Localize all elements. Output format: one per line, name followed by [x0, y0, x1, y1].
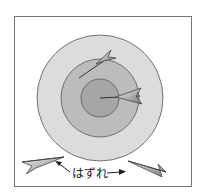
dart-target-diagram: はずれ	[0, 0, 202, 193]
miss-label: はずれ	[72, 167, 108, 181]
